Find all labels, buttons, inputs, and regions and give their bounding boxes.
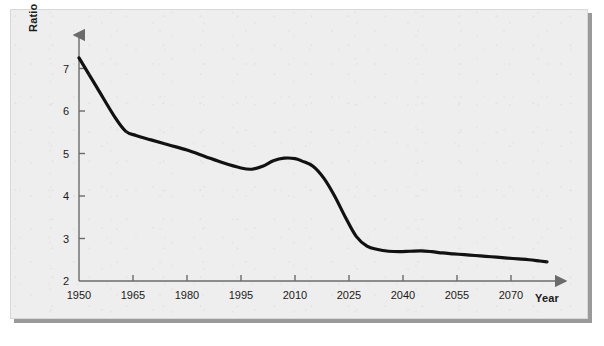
y-axis-title: Ratio	[27, 4, 39, 33]
figure-panel: 2345671950196519801995201020252040205520…	[10, 9, 588, 319]
chart-page: 2345671950196519801995201020252040205520…	[0, 0, 604, 346]
x-tick-label: 2010	[283, 289, 307, 301]
line-chart-plot: 2345671950196519801995201020252040205520…	[11, 10, 587, 318]
x-tick-label: 2070	[499, 289, 523, 301]
axis-ticks-group	[79, 69, 511, 282]
x-tick-label: 1950	[67, 289, 91, 301]
y-tick-label: 2	[63, 275, 69, 287]
y-tick-label: 5	[63, 148, 69, 160]
x-axis-title: Year	[535, 292, 559, 304]
y-tick-label: 3	[63, 233, 69, 245]
y-tick-label: 4	[63, 190, 69, 202]
y-tick-label: 7	[63, 63, 69, 75]
x-tick-label: 2055	[445, 289, 469, 301]
series-line-ratio	[79, 58, 547, 262]
y-tick-label: 6	[63, 105, 69, 117]
x-tick-label: 1980	[175, 289, 199, 301]
x-tick-label: 1965	[121, 289, 145, 301]
data-series-group	[79, 58, 547, 262]
x-tick-label: 1995	[229, 289, 253, 301]
axis-tick-labels-group: 2345671950196519801995201020252040205520…	[63, 63, 523, 302]
x-tick-label: 2025	[337, 289, 361, 301]
axes-group	[79, 35, 561, 281]
x-tick-label: 2040	[391, 289, 415, 301]
